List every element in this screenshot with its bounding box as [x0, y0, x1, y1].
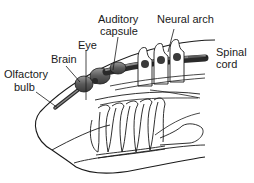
label-neural-arch: Neural arch: [157, 13, 214, 25]
vertebrate-head-diagram: Olfactory bulb Brain Eye Auditory capsul…: [0, 0, 254, 183]
snout-outline: [36, 112, 76, 167]
mouth-line: [52, 125, 110, 150]
body-line-1: [150, 90, 200, 98]
label-eye: Eye: [78, 39, 97, 51]
label-brain: Brain: [51, 53, 77, 65]
label-auditory-capsule-line2: capsule: [100, 25, 138, 37]
label-olfactory-bulb-line2: bulb: [14, 81, 35, 93]
label-olfactory-bulb-line1: Olfactory: [4, 68, 48, 80]
label-spinal-cord-line1: Spinal: [216, 46, 247, 58]
auditory-capsule-shape: [110, 62, 126, 74]
ventral-outline: [76, 157, 205, 173]
label-spinal-cord-line2: cord: [216, 58, 237, 70]
gill-arches: [90, 98, 165, 158]
label-auditory-capsule-line1: Auditory: [98, 13, 138, 25]
